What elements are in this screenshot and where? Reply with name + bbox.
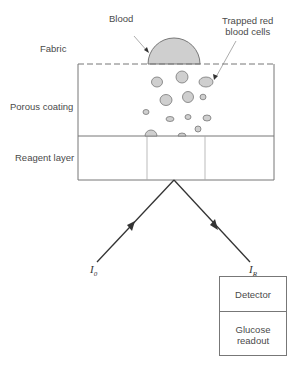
blood-drop: [148, 38, 200, 64]
cells-pointer: [216, 41, 236, 77]
trapped-cells-label: Trapped red blood cells: [222, 15, 273, 37]
incident-light-ray: [97, 180, 174, 262]
reagent-layer-label: Reagent layer: [15, 152, 74, 163]
porous-coating-label: Porous coating: [10, 101, 73, 112]
incident-intensity-label: I0: [90, 263, 97, 278]
glucose-readout: Glucose readout: [220, 312, 286, 357]
detector-label: Detector: [220, 277, 286, 312]
detector-box: Detector Glucose readout: [219, 276, 287, 356]
reflected-light-ray: [174, 180, 250, 262]
fabric-label: Fabric: [40, 43, 66, 54]
blood-label: Blood: [109, 13, 133, 24]
red-blood-cells: [143, 71, 213, 136]
